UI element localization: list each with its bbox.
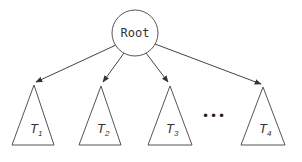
- root-node: Root: [112, 10, 158, 56]
- subtree-t3: T3: [148, 86, 192, 145]
- subtree-t1: T1: [12, 85, 54, 145]
- subtree-t2: T2: [79, 86, 121, 145]
- tree-diagram: Root T1 T2 T3 ••• T4: [0, 0, 302, 162]
- root-label: Root: [121, 26, 150, 40]
- edge-root-t1: [36, 45, 116, 82]
- edge-root-t2: [103, 53, 124, 82]
- subtree-t4: T4: [241, 87, 285, 145]
- edge-root-t3: [146, 53, 168, 82]
- edge-root-t4: [155, 44, 261, 84]
- ellipsis: •••: [202, 109, 226, 123]
